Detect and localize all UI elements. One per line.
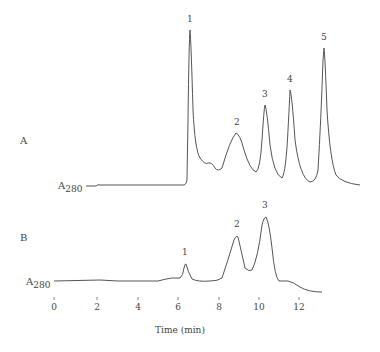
- x-tick-12: 12: [293, 302, 304, 312]
- x-tick-2: 2: [94, 302, 100, 312]
- y-label-sub: 280: [65, 184, 82, 194]
- y-label-sub: 280: [33, 280, 50, 290]
- x-tick-4: 4: [135, 302, 141, 312]
- peak-label-a1: 1: [187, 14, 193, 24]
- peak-label-a3: 3: [262, 89, 268, 99]
- peak-label-a2: 2: [234, 117, 240, 127]
- x-tick-0: 0: [51, 302, 57, 312]
- x-tick-10: 10: [253, 302, 264, 312]
- panel-a-label: A: [20, 135, 27, 146]
- x-tick-6: 6: [175, 302, 181, 312]
- peak-label-b2: 2: [234, 219, 240, 229]
- peak-label-b1: 1: [182, 247, 188, 257]
- chromatogram-plot: [0, 0, 380, 352]
- y-axis-label-a: A280: [58, 180, 82, 194]
- trace-b: [54, 217, 322, 292]
- x-tick-8: 8: [216, 302, 222, 312]
- peak-label-a5: 5: [321, 32, 327, 42]
- peak-label-b3: 3: [262, 200, 268, 210]
- x-axis-ticks: [54, 297, 299, 300]
- y-axis-label-b: A280: [26, 276, 50, 290]
- x-axis-label: Time (min): [155, 325, 205, 335]
- panel-b-label: B: [20, 232, 27, 243]
- trace-a: [86, 30, 360, 186]
- peak-label-a4: 4: [287, 74, 293, 84]
